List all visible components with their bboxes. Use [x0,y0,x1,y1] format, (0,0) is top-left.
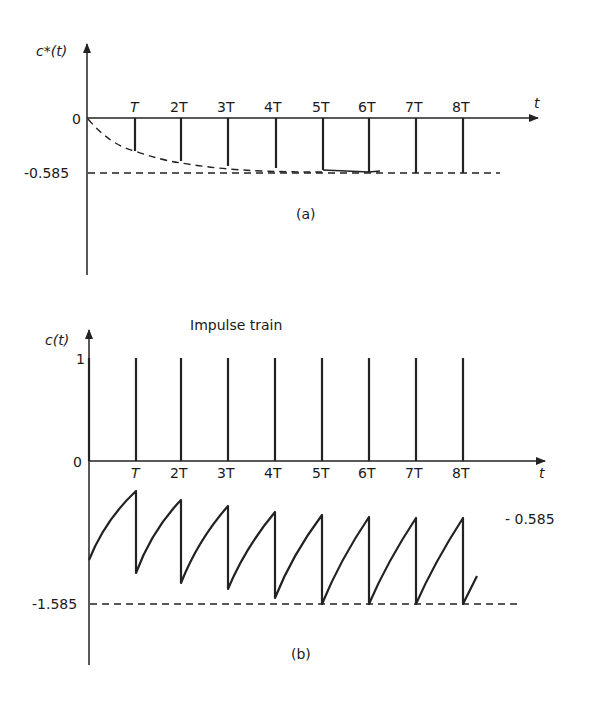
tick-label: 4T [264,465,282,481]
tick-label: 7T [405,465,423,481]
panel-b-level-label: -1.585 [32,596,77,612]
panel-b-impulse-train [89,358,463,461]
panel-b-sawtooth-response [89,491,477,604]
panel-a-x-label: t [534,95,540,111]
panel-b-one-label: 1 [76,351,85,367]
tick-label: T [131,465,141,481]
panel-a-zero-label: 0 [72,111,81,127]
tick-label: 8T [452,99,470,115]
panel-b-upper-label: - 0.585 [505,511,555,527]
tick-label: 2T [170,465,188,481]
tick-label: 8T [452,465,470,481]
panel-a: c*(t) t 0 -0.585 T 2T 3T 4T 5T 6T 7T 8T … [24,43,540,275]
panel-a-y-label: c*(t) [36,43,67,59]
panel-a-impulses [135,118,463,173]
panel-b-y-label: c(t) [45,332,69,348]
tick-label: 5T [312,465,330,481]
panel-a-level-label: -0.585 [24,165,69,181]
tick-label: 7T [405,99,423,115]
tick-label: 6T [358,465,376,481]
tick-label: 4T [264,99,282,115]
panel-b-title: Impulse train [190,317,282,333]
tick-label: 5T [312,99,330,115]
tick-label: 6T [358,99,376,115]
panel-b-tick-labels: T 2T 3T 4T 5T 6T 7T 8T [131,465,470,481]
panel-a-caption: (a) [296,206,316,222]
panel-b: c(t) Impulse train 1 0 t -1.585 - 0.585 … [32,317,555,665]
panel-b-caption: (b) [291,646,311,662]
tick-label: T [130,99,140,115]
tick-label: 3T [217,465,235,481]
tick-label: 2T [170,99,188,115]
diagram-canvas: c*(t) t 0 -0.585 T 2T 3T 4T 5T 6T 7T 8T … [0,0,596,702]
panel-a-tick-labels: T 2T 3T 4T 5T 6T 7T 8T [130,99,470,115]
panel-b-x-label: t [539,465,545,481]
panel-a-envelope-curve [88,119,322,172]
tick-label: 3T [217,99,235,115]
panel-b-zero-label: 0 [73,454,82,470]
